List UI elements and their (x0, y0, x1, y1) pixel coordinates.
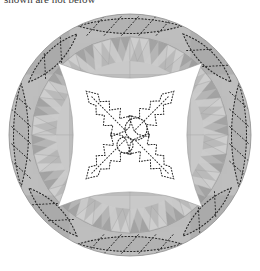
quilt-medallion-svg (0, 0, 260, 271)
center-astroid-panel (58, 63, 202, 207)
center-panel-layer (58, 63, 202, 207)
quilt-figure (0, 0, 260, 271)
